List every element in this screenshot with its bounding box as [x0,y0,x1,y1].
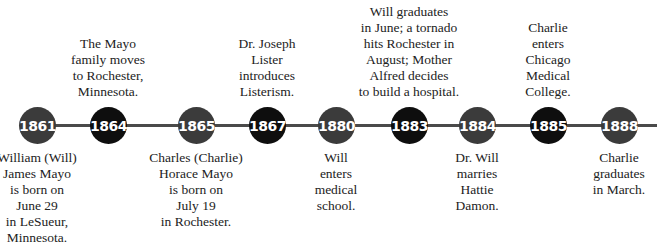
event-description-1867: Dr. Joseph Lister introduces Listerism. [202,36,332,100]
event-description-1861: William (Will) James Mayo is born on Jun… [0,150,102,246]
event-description-1888: Charlie graduates in March. [554,150,657,198]
year-marker-1865: 1865 [178,107,215,144]
year-marker-1885: 1885 [530,107,567,144]
year-marker-1867: 1867 [249,107,286,144]
year-marker-1888: 1888 [601,107,638,144]
year-marker-1864: 1864 [90,107,127,144]
event-description-1864: The Mayo family moves to Rochester, Minn… [43,36,173,100]
year-marker-1884: 1884 [459,107,496,144]
event-description-1865: Charles (Charlie) Horace Mayo is born on… [131,150,261,230]
event-description-1883: Will graduates in June; a tornado hits R… [344,4,474,100]
year-marker-1880: 1880 [318,107,355,144]
event-description-1885: Charlie enters Chicago Medical College. [483,20,613,100]
event-description-1880: Will enters medical school. [271,150,401,214]
year-marker-1883: 1883 [391,107,428,144]
year-marker-1861: 1861 [19,107,56,144]
event-description-1884: Dr. Will marries Hattie Damon. [412,150,542,214]
